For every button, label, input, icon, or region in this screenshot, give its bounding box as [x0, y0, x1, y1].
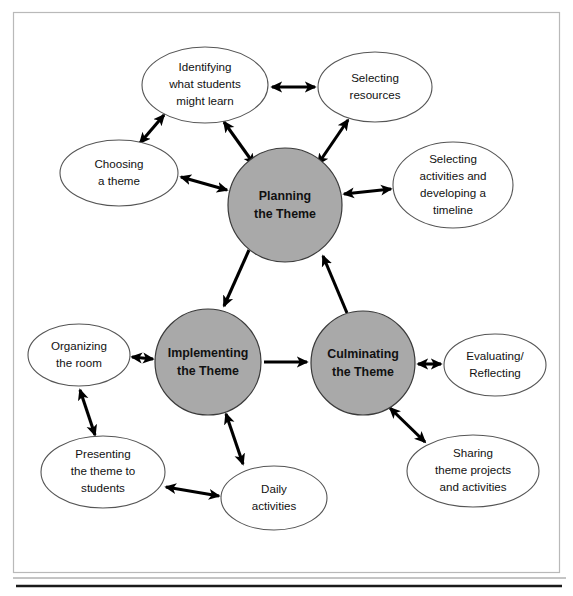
connector-culminating-to-planning — [323, 256, 347, 313]
node-selecting-activities-label-3: developing a — [420, 186, 486, 199]
node-organizing-room-shape[interactable] — [28, 324, 130, 386]
connector-presenting-to-daily-activities — [166, 487, 219, 496]
node-sharing[interactable]: Sharing theme projects and activities — [407, 435, 539, 507]
node-implementing-label-2: the Theme — [177, 364, 239, 378]
node-culminating-label-1: Culminating — [327, 347, 399, 361]
node-choosing-theme-shape[interactable] — [60, 140, 178, 206]
node-planning-label-2: the Theme — [254, 207, 316, 221]
connector-identifying-to-planning — [224, 122, 254, 164]
core-node-layer: Planning the Theme Implementing the Them… — [155, 148, 415, 415]
node-identifying-label-2: what students — [168, 77, 241, 90]
node-daily-activities[interactable]: Daily activities — [221, 466, 327, 530]
connector-identifying-to-choosing-theme — [140, 115, 164, 143]
node-selecting-activities[interactable]: Selecting activities and developing a ti… — [393, 142, 513, 228]
node-implementing-shape[interactable] — [155, 309, 261, 415]
node-choosing-theme[interactable]: Choosing a theme — [60, 140, 178, 206]
connector-planning-to-implementing — [224, 250, 249, 306]
node-sharing-label-3: and activities — [439, 480, 506, 493]
node-daily-activities-label-1: Daily — [261, 482, 287, 495]
node-selecting-activities-label-1: Selecting — [429, 152, 477, 165]
node-selecting-resources-label-2: resources — [350, 88, 401, 101]
node-selecting-resources-label-1: Selecting — [351, 71, 399, 84]
diagram-canvas: Identifying what students might learn Se… — [0, 0, 573, 596]
node-planning[interactable]: Planning the Theme — [228, 148, 342, 262]
node-evaluating-label-1: Evaluating/ — [466, 349, 524, 362]
node-choosing-theme-label-1: Choosing — [95, 157, 144, 170]
node-sharing-label-1: Sharing — [453, 446, 493, 459]
node-presenting[interactable]: Presenting the theme to students — [41, 436, 165, 508]
node-presenting-label-1: Presenting — [75, 447, 130, 460]
node-presenting-label-2: the theme to — [71, 464, 135, 477]
node-planning-label-1: Planning — [259, 189, 311, 203]
node-daily-activities-shape[interactable] — [221, 466, 327, 530]
node-selecting-resources[interactable]: Selecting resources — [318, 52, 432, 122]
node-planning-shape[interactable] — [228, 148, 342, 262]
node-implementing-label-1: Implementing — [168, 346, 249, 360]
node-culminating-shape[interactable] — [311, 311, 415, 415]
node-organizing-room-label-1: Organizing — [51, 339, 107, 352]
connector-selecting-activities-to-planning — [344, 189, 391, 194]
connector-choosing-theme-to-planning — [181, 177, 227, 190]
node-evaluating[interactable]: Evaluating/ Reflecting — [444, 334, 546, 396]
connector-presenting-to-organizing-room — [80, 390, 95, 435]
node-evaluating-shape[interactable] — [444, 334, 546, 396]
node-choosing-theme-label-2: a theme — [98, 174, 140, 187]
node-organizing-room-label-2: the room — [56, 356, 102, 369]
node-daily-activities-label-2: activities — [252, 499, 297, 512]
node-identifying-label-1: Identifying — [179, 60, 232, 73]
node-evaluating-label-2: Reflecting — [469, 366, 521, 379]
node-selecting-resources-shape[interactable] — [318, 52, 432, 122]
connector-organizing-room-to-implementing — [132, 357, 153, 359]
node-culminating[interactable]: Culminating the Theme — [311, 311, 415, 415]
node-selecting-activities-label-4: timeline — [433, 203, 473, 216]
node-culminating-label-2: the Theme — [332, 365, 394, 379]
node-identifying-label-3: might learn — [176, 94, 233, 107]
node-presenting-label-3: students — [81, 481, 125, 494]
node-sharing-label-2: theme projects — [435, 463, 511, 476]
node-organizing-room[interactable]: Organizing the room — [28, 324, 130, 386]
connector-sharing-to-culminating — [390, 408, 425, 442]
node-selecting-activities-label-2: activities and — [419, 169, 486, 182]
satellite-node-layer: Identifying what students might learn Se… — [28, 47, 546, 530]
connector-selecting-resources-to-planning — [318, 120, 348, 164]
connector-daily-activities-to-implementing — [226, 414, 243, 464]
node-identifying[interactable]: Identifying what students might learn — [142, 47, 268, 123]
thematic-unit-diagram: Identifying what students might learn Se… — [0, 0, 573, 596]
node-implementing[interactable]: Implementing the Theme — [155, 309, 261, 415]
